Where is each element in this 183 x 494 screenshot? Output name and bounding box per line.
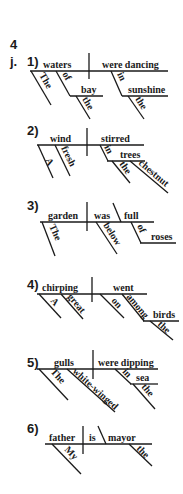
preposition: in xyxy=(121,366,135,380)
exercise-letter: j. xyxy=(9,54,17,69)
page-number: 4 xyxy=(10,37,18,52)
modifier: the xyxy=(80,95,96,113)
modifier: The xyxy=(37,71,55,91)
diagram-number: 6) xyxy=(27,421,39,436)
prep-object: roses xyxy=(151,231,173,242)
subject: waters xyxy=(43,59,71,70)
complement-divider xyxy=(98,426,106,444)
diagram-number: 5) xyxy=(27,355,39,370)
prep-object: sunshine xyxy=(128,84,166,95)
modifier: below xyxy=(101,220,124,248)
predicate: went xyxy=(113,282,134,293)
preposition: among xyxy=(124,291,151,320)
diagram-number: 3) xyxy=(27,198,39,213)
modifier: on xyxy=(110,295,126,311)
diagram-number: 2) xyxy=(27,123,39,138)
modifier: the xyxy=(135,443,153,461)
complement-divider xyxy=(113,203,121,222)
modifier: white-winged xyxy=(71,365,121,412)
diagram-6: 6) father is mayor My the xyxy=(27,421,152,474)
modifier: the xyxy=(133,94,150,112)
diagram-5: 5) gulls were dipping The white-winged i… xyxy=(27,350,158,412)
modifier: chestnut xyxy=(137,157,172,189)
verb: was xyxy=(94,210,110,221)
complement: mayor xyxy=(108,432,136,443)
predicate: stirred xyxy=(101,133,130,144)
sentence-diagrams: 4 j. 1) waters were dancing The of bay t… xyxy=(0,0,183,494)
preposition: of xyxy=(135,222,149,235)
modifier: A xyxy=(43,156,56,168)
prep-object: bay xyxy=(81,84,97,95)
preposition: in xyxy=(115,70,129,83)
prep-object: trees xyxy=(120,149,140,160)
verb: is xyxy=(89,432,96,443)
predicate: were dancing xyxy=(102,59,159,70)
modifier: My xyxy=(63,444,81,462)
subject: father xyxy=(49,432,76,443)
subject: garden xyxy=(48,210,78,221)
modifier: fresh xyxy=(59,144,78,169)
modifier: The xyxy=(47,222,64,242)
diagram-2: 2) wind stirred A fresh in trees the che… xyxy=(27,123,172,193)
subject: wind xyxy=(50,133,72,144)
complement: full xyxy=(124,210,139,221)
diagram-3: 3) garden was full The below of roses xyxy=(27,198,176,256)
predicate: were dipping xyxy=(98,357,154,368)
diagram-4: 4) chirping went A great on among birds … xyxy=(27,277,179,340)
diagram-1: 1) waters were dancing The of bay the in… xyxy=(27,53,168,119)
diagram-number: 4) xyxy=(27,277,39,292)
diagram-number: 1) xyxy=(27,54,39,69)
